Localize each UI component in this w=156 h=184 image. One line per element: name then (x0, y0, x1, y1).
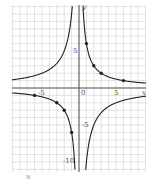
x-axis-label: x (142, 90, 146, 97)
y-tick-neg5: -5 (82, 122, 89, 129)
hyperbola-chart (0, 0, 156, 184)
x-tick-neg5: -5 (38, 90, 45, 97)
x-tick-5: 5 (114, 90, 118, 97)
y-tick-neg10: -10 (63, 158, 74, 165)
y-tick-5: 5 (73, 48, 77, 55)
y-axis-label: y (82, 4, 86, 11)
caption: N (26, 174, 30, 180)
x-tick-0: 0 (81, 90, 85, 97)
